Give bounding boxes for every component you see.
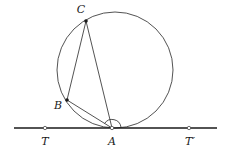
point-marker-C [84,19,88,23]
point-marker-T [43,126,46,129]
point-label-C: C [77,4,85,15]
angle-arc-at-A [105,119,122,127]
geometry-figure: C B A T T′ [0,0,228,158]
point-label-B: B [54,100,62,111]
segment-CB [67,21,86,100]
point-marker-A [110,126,113,129]
point-label-A: A [108,136,116,147]
segment-BA [67,100,112,128]
point-marker-T-prime [187,126,190,129]
point-label-T-prime: T′ [185,136,195,147]
point-marker-B [65,98,69,102]
point-label-T: T [41,136,48,147]
segment-CA [86,21,112,128]
